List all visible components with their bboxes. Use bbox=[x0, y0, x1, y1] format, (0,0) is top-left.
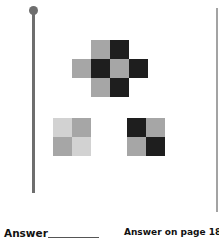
grid-cell-gray bbox=[53, 137, 72, 156]
grid-cell-light bbox=[53, 118, 72, 137]
grid-cell-black bbox=[110, 78, 129, 97]
grid-cell-gray bbox=[72, 59, 91, 78]
grid-cell-black bbox=[91, 59, 110, 78]
right-divider bbox=[216, 8, 218, 212]
answer-label: Answer bbox=[4, 227, 48, 239]
option-left-square bbox=[53, 118, 91, 156]
grid-cell-black bbox=[129, 59, 148, 78]
grid-cell-gray bbox=[110, 59, 129, 78]
grid-cell-black bbox=[146, 137, 165, 156]
grid-cell-gray bbox=[72, 118, 91, 137]
cross-pattern bbox=[72, 40, 148, 97]
grid-cell-gray bbox=[127, 137, 146, 156]
grid-cell-gray bbox=[146, 118, 165, 137]
grid-cell-black bbox=[110, 40, 129, 59]
grid-cell-black bbox=[127, 118, 146, 137]
answer-blank-line[interactable] bbox=[48, 237, 99, 238]
grid-cell-gray bbox=[91, 78, 110, 97]
grid-cell-gray bbox=[91, 40, 110, 59]
grid-cell-light bbox=[72, 137, 91, 156]
left-pole bbox=[32, 11, 35, 193]
answer-reference: Answer on page 184 bbox=[124, 227, 219, 237]
option-right-square bbox=[127, 118, 165, 156]
